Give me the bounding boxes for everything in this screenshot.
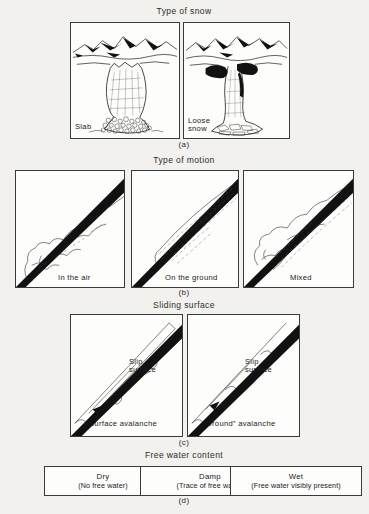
in-the-air-illustration [16,171,124,287]
section-heading-type-of-motion: Type of motion [153,155,214,165]
panel-label-ground-avalanche: “Ground” avalanche [203,420,276,428]
caption-b: (b) [179,288,190,297]
panel-label-on-the-ground: On the ground [165,274,217,282]
panel-mixed [243,170,354,288]
free-water-dry-name: Dry [96,472,109,482]
slab-illustration [71,23,179,138]
avalanche-classification-figure: Type of snow [0,0,369,514]
section-heading-sliding-surface: Sliding surface [153,300,215,310]
panel-label-mixed: Mixed [290,274,312,282]
panel-label-loose-snow: Loose snow [188,117,210,133]
free-water-wet-desc: (Free water visibly present) [251,481,340,490]
panel-label-slab: Slab [75,123,91,131]
panel-on-the-ground [131,170,239,288]
free-water-damp-name: Damp [199,472,221,482]
caption-a: (a) [179,140,190,149]
panel-label-in-the-air: In the air [58,274,91,282]
annotation-slip-surface-left: Slip surface [129,358,156,374]
free-water-wet-name: Wet [289,472,304,482]
ground-avalanche-illustration [188,315,299,436]
section-heading-free-water-content: Free water content [145,450,223,460]
section-heading-type-of-snow: Type of snow [157,6,212,16]
panel-in-the-air [15,170,125,288]
free-water-box-wet: Wet (Free water visibly present) [230,466,362,496]
surface-avalanche-illustration [71,315,182,436]
panel-label-surface-avalanche: Surface avalanche [89,420,157,428]
caption-c: (c) [179,438,190,447]
mixed-illustration [244,171,353,287]
annotation-slip-surface-right: Slip surface [245,358,272,374]
free-water-dry-desc: (No free water) [78,481,127,490]
caption-d: (d) [179,496,190,505]
on-the-ground-illustration [132,171,238,287]
